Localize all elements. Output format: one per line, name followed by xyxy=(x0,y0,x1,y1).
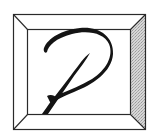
framed-letter-p-icon xyxy=(0,0,156,140)
p-logo xyxy=(0,0,156,140)
